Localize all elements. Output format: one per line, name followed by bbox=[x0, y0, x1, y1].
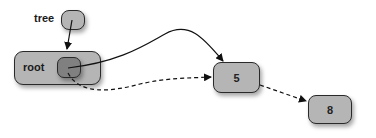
root-to-5-solid-arrow bbox=[68, 29, 223, 68]
diagram-canvas: tree root 5 8 bbox=[0, 0, 376, 138]
root-to-5-dashed-arrow bbox=[68, 73, 211, 90]
tree-to-root-arrow bbox=[67, 20, 72, 49]
edges-layer bbox=[0, 0, 376, 138]
node-5-to-8-dashed-arrow bbox=[260, 85, 306, 101]
